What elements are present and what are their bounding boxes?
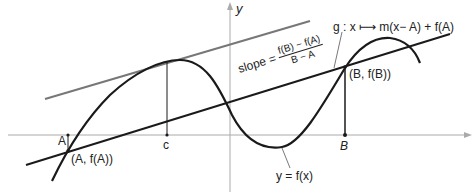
B-point-label: (B, f(B)) — [349, 68, 391, 80]
B-label: B — [340, 140, 348, 152]
secant-map-label: g : x ⟼ m(x− A) + f(A) — [333, 21, 454, 33]
A-point-label: (A, f(A)) — [71, 153, 113, 165]
c-label: c — [163, 139, 169, 151]
A-label: A — [58, 135, 66, 147]
y-axis-arrow-icon — [227, 2, 233, 10]
B-tick — [343, 133, 347, 137]
B-point-dot — [343, 65, 347, 69]
secant-line — [26, 34, 450, 165]
A-point-dot — [66, 149, 70, 153]
function-leader — [282, 148, 290, 168]
c-tick — [165, 133, 168, 136]
function-label: y = f(x) — [276, 170, 313, 182]
y-axis-label: y — [236, 2, 243, 15]
map-leader — [334, 32, 342, 68]
A-tick — [66, 133, 69, 136]
x-axis-arrow-icon — [464, 132, 472, 138]
